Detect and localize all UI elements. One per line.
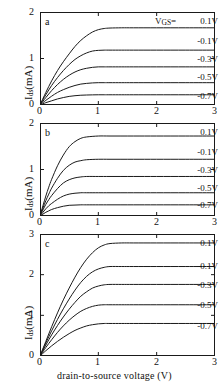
panel-a-curve-label-1: -0.1V bbox=[197, 37, 218, 46]
panel-b-xtick-3: 3 bbox=[212, 217, 217, 227]
curve--0.7V bbox=[40, 323, 215, 356]
ylabel-unit-a: (mA) bbox=[22, 66, 34, 90]
panel-a bbox=[40, 12, 215, 105]
curve--0.7V bbox=[40, 205, 215, 216]
panel-a-xtick-1: 1 bbox=[95, 106, 100, 116]
panel-b-xtick-0: 0 bbox=[37, 217, 42, 227]
panel-c bbox=[40, 234, 215, 356]
curve-0.1V bbox=[40, 136, 215, 216]
panel-b-plot bbox=[40, 123, 215, 216]
panel-a-curve-label-4: -0.7V bbox=[197, 92, 218, 101]
panel-b-ytick-1: 1 bbox=[29, 164, 34, 174]
panel-a-curve-label-3: -0.5V bbox=[197, 73, 218, 82]
vgs-header-eq: = bbox=[171, 16, 176, 26]
panel-a-ytick-1: 1 bbox=[29, 53, 34, 63]
curve-0.1V bbox=[40, 243, 215, 356]
panel-c-ytick-2: 2 bbox=[29, 269, 34, 279]
panel-c-xtick-3: 3 bbox=[212, 357, 217, 367]
panel-a-ytick-2: 2 bbox=[29, 7, 34, 17]
panel-a-curve-label-2: -0.3V bbox=[197, 55, 218, 64]
panel-a-plot bbox=[40, 12, 215, 105]
panel-b-curve-label-0: 0.1V bbox=[200, 128, 218, 137]
ylabel-sub-a: ds bbox=[26, 90, 35, 97]
curve--0.3V bbox=[40, 176, 215, 216]
ylabel-i-a: I bbox=[22, 96, 34, 100]
panel-a-xtick-3: 3 bbox=[212, 106, 217, 116]
curve--0.7V bbox=[40, 95, 215, 105]
panel-c-xtick-0: 0 bbox=[37, 357, 42, 367]
panel-b-curve-label-4: -0.7V bbox=[197, 201, 218, 210]
panel-b-curve-label-3: -0.5V bbox=[197, 184, 218, 193]
panel-b bbox=[40, 123, 215, 216]
curve--0.3V bbox=[40, 67, 215, 105]
panel-c-ylabel: Ids(mA) bbox=[22, 306, 35, 340]
xaxis-label: drain-to-source voltage (V) bbox=[57, 370, 172, 381]
panel-c-curve-label-4: -0.7V bbox=[197, 322, 218, 331]
plot-frame bbox=[41, 13, 215, 105]
panel-c-curve-label-0: 0.1V bbox=[200, 239, 218, 248]
ylabel-sub-c: ds bbox=[26, 330, 35, 337]
panel-c-curve-label-1: -0.1V bbox=[197, 262, 218, 271]
panel-c-xtick-1: 1 bbox=[95, 357, 100, 367]
panel-c-letter: c bbox=[45, 238, 49, 249]
panel-b-letter: b bbox=[45, 127, 50, 138]
panel-b-ytick-0: 0 bbox=[29, 210, 34, 220]
panel-b-xtick-2: 2 bbox=[154, 217, 159, 227]
panel-a-xtick-0: 0 bbox=[37, 106, 42, 116]
panel-c-ytick-0: 0 bbox=[29, 350, 34, 360]
vgs-header-sub: GS bbox=[162, 18, 172, 27]
panel-a-xtick-2: 2 bbox=[154, 106, 159, 116]
curve--0.3V bbox=[40, 284, 215, 356]
vgs-header: VGS= bbox=[155, 17, 176, 27]
figure-root: a 2 1 0 0 1 2 3 VGS= 0.1V -0.1V -0.3V -0… bbox=[0, 0, 224, 386]
curve--0.1V bbox=[40, 159, 215, 216]
panel-b-curve-label-2: -0.3V bbox=[197, 166, 218, 175]
ylabel-i-b: I bbox=[22, 207, 34, 211]
curve--0.5V bbox=[40, 83, 215, 105]
ylabel-unit-c: (mA) bbox=[22, 306, 34, 330]
panel-c-curve-label-2: -0.3V bbox=[197, 281, 218, 290]
panel-c-ytick-3: 3 bbox=[29, 229, 34, 239]
ylabel-unit-b: (mA) bbox=[22, 177, 34, 201]
panel-a-letter: a bbox=[45, 16, 49, 27]
panel-b-ytick-2: 2 bbox=[29, 118, 34, 128]
panel-c-plot bbox=[40, 234, 215, 356]
panel-c-xtick-2: 2 bbox=[154, 357, 159, 367]
ylabel-i-c: I bbox=[22, 336, 34, 340]
panel-b-xtick-1: 1 bbox=[95, 217, 100, 227]
panel-a-ylabel: Ids(mA) bbox=[22, 66, 35, 100]
panel-a-curve-label-0: 0.1V bbox=[200, 17, 218, 26]
plot-frame bbox=[41, 235, 215, 356]
ylabel-sub-b: ds bbox=[26, 201, 35, 208]
panel-c-curve-label-3: -0.5V bbox=[197, 301, 218, 310]
curve--0.1V bbox=[40, 266, 215, 356]
panel-b-ylabel: Ids(mA) bbox=[22, 177, 35, 211]
plot-frame bbox=[41, 124, 215, 216]
panel-a-ytick-0: 0 bbox=[29, 99, 34, 109]
panel-b-curve-label-1: -0.1V bbox=[197, 148, 218, 157]
